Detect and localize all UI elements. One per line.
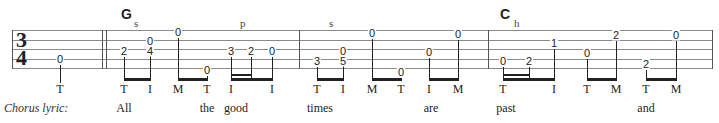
note-stem [272,57,273,79]
fret-number: 2 [247,46,255,57]
finger-label: M [611,82,622,97]
lyric-word: and [637,101,654,116]
staff-line [12,49,713,50]
barline [712,30,713,69]
finger-label: M [173,82,184,97]
beam [124,78,151,81]
finger-label: T [313,82,320,97]
chord-symbol: G [121,6,132,22]
fret-number: 0 [454,29,462,40]
fret-number: 0 [56,54,64,65]
beam [646,78,677,81]
note-stem [372,39,373,79]
fret-number: 3 [313,56,321,67]
finger-label: T [397,82,404,97]
time-signature: 3 4 [16,31,27,67]
finger-label: M [453,82,464,97]
staff-line [12,40,713,41]
barline [106,30,107,69]
finger-label: T [499,82,506,97]
lyric-word: All [116,101,131,116]
finger-label: M [671,82,682,97]
beam [231,78,273,81]
finger-label: T [120,82,127,97]
time-signature-bottom: 4 [16,49,27,67]
fret-number: 0 [174,27,182,38]
finger-label: I [270,82,274,97]
fret-number: 2 [642,59,650,70]
fret-number: 0 [425,47,433,58]
technique-mark: p [240,17,246,29]
finger-label: I [552,82,556,97]
technique-mark: h [514,17,520,29]
lyric-word: past [496,101,515,116]
barline [488,30,489,69]
beam [429,78,459,81]
technique-mark: s [134,17,138,29]
staff-line [12,30,713,31]
lyric-word: good [224,101,248,116]
fret-number: 2 [120,46,128,57]
finger-label: T [583,82,590,97]
note-stem [60,65,61,83]
note-stem [587,59,588,79]
fret-number: 2 [612,30,620,41]
barline [12,30,13,69]
note-stem [124,57,125,79]
note-stem [554,49,555,79]
fret-number: 0 [583,48,591,59]
staff-line [12,68,713,69]
chord-symbol: C [500,6,510,22]
fret-number: 0 [268,46,276,57]
note-stem [458,40,459,79]
fret-number: 5 [339,56,347,67]
fret-number: 0 [203,65,211,76]
lyric-word: the [200,101,215,116]
finger-label: T [642,82,649,97]
finger-label: T [203,82,210,97]
barline [102,30,103,69]
beam-16th [231,74,252,76]
finger-label: T [56,82,63,97]
fret-number: 0 [672,30,680,41]
staff-line [12,59,713,60]
lyric-label: Chorus lyric: [4,101,68,116]
fret-number: 0 [499,56,507,67]
note-stem [616,41,617,79]
finger-label: I [148,82,152,97]
finger-label: I [229,82,233,97]
fret-number: 0 [368,28,376,39]
beam [587,78,617,81]
fret-number: 2 [525,56,533,67]
barline [299,30,300,69]
technique-mark: s [329,17,333,29]
finger-label: I [341,82,345,97]
lyric-word: times [307,101,333,116]
fret-number: 1 [550,38,558,49]
note-stem [429,58,430,79]
beam [372,78,402,81]
note-stem [676,41,677,79]
finger-label: I [427,82,431,97]
beam [317,78,344,81]
beam [178,78,208,81]
fret-number: 0 [397,67,405,78]
note-stem [178,38,179,79]
fret-number: 3 [227,46,235,57]
beam-16th [503,74,530,76]
fret-number: 4 [146,46,154,57]
lyric-word: are [424,101,439,116]
finger-label: M [367,82,378,97]
beam [503,78,555,81]
